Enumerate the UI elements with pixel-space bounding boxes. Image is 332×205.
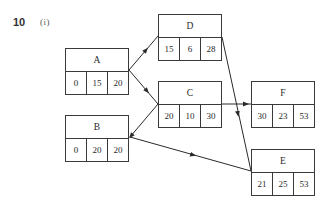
edge-a-d [129, 36, 158, 70]
node-d-label: D [159, 15, 221, 38]
node-a-duration: 15 [87, 72, 108, 94]
node-c-latest-finish: 30 [201, 105, 221, 127]
node-c-earliest-start: 20 [159, 105, 180, 127]
node-b: B 0 20 20 [65, 115, 129, 162]
edge-b-e [130, 137, 251, 171]
node-c: C 20 10 30 [158, 81, 222, 128]
edge-a-c [129, 70, 158, 104]
node-a-label: A [66, 49, 128, 72]
node-d-earliest-start: 15 [159, 38, 180, 60]
edge-c-b [130, 104, 158, 137]
node-d-latest-finish: 28 [201, 38, 221, 60]
node-e-duration: 25 [273, 173, 294, 195]
node-e-label: E [252, 150, 314, 173]
node-a-latest-finish: 20 [108, 72, 128, 94]
node-b-latest-finish: 20 [108, 139, 128, 161]
node-b-duration: 20 [87, 139, 108, 161]
node-e-latest-finish: 53 [294, 173, 314, 195]
node-f-latest-finish: 53 [294, 105, 314, 127]
node-f-label: F [252, 82, 314, 105]
node-d: D 15 6 28 [158, 14, 222, 61]
node-a: A 0 15 20 [65, 48, 129, 95]
node-b-label: B [66, 116, 128, 139]
node-c-label: C [159, 82, 221, 105]
node-e-earliest-start: 21 [252, 173, 273, 195]
node-c-duration: 10 [180, 105, 201, 127]
node-d-duration: 6 [180, 38, 201, 60]
node-f: F 30 23 53 [251, 81, 315, 128]
node-e: E 21 25 53 [251, 149, 315, 196]
node-a-earliest-start: 0 [66, 72, 87, 94]
node-b-earliest-start: 0 [66, 139, 87, 161]
node-f-earliest-start: 30 [252, 105, 273, 127]
node-f-duration: 23 [273, 105, 294, 127]
